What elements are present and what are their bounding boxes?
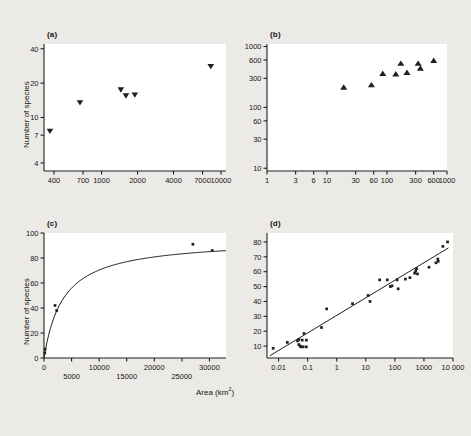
data-point bbox=[391, 284, 394, 287]
svg-text:25000: 25000 bbox=[171, 372, 192, 381]
data-point bbox=[416, 273, 419, 276]
data-point bbox=[415, 267, 418, 270]
svg-text:4000: 4000 bbox=[165, 176, 182, 185]
svg-text:40: 40 bbox=[30, 304, 38, 313]
data-point bbox=[47, 129, 54, 134]
svg-text:700: 700 bbox=[77, 176, 90, 185]
data-point bbox=[55, 309, 58, 312]
panel-d-canvas: 10203040506070800.010.1110100100010 000 bbox=[236, 205, 471, 436]
data-point bbox=[368, 82, 375, 87]
svg-text:100: 100 bbox=[249, 103, 262, 112]
shared-x-axis-label: Area (km2) bbox=[196, 386, 234, 397]
svg-text:1: 1 bbox=[265, 176, 269, 185]
svg-text:7000: 7000 bbox=[194, 176, 211, 185]
svg-text:0: 0 bbox=[34, 354, 38, 363]
data-point bbox=[43, 352, 46, 355]
data-point bbox=[369, 300, 372, 303]
panel-c-canvas: 0204060801000500010000150002000025000300… bbox=[0, 205, 236, 436]
panel-a: (a) Number of species 471020404007001000… bbox=[0, 0, 236, 200]
data-point bbox=[340, 84, 347, 89]
svg-text:30: 30 bbox=[253, 135, 261, 144]
data-point bbox=[44, 348, 47, 351]
data-point bbox=[302, 345, 305, 348]
data-point bbox=[301, 339, 304, 342]
data-point bbox=[305, 345, 308, 348]
svg-text:0: 0 bbox=[42, 363, 46, 372]
data-point bbox=[446, 241, 449, 244]
data-point bbox=[404, 278, 407, 281]
svg-text:30: 30 bbox=[253, 312, 261, 321]
data-point bbox=[211, 249, 214, 252]
panel-b-canvas: 1030601003006001000136103060100300600100… bbox=[236, 0, 471, 200]
data-point bbox=[415, 60, 422, 65]
svg-text:20: 20 bbox=[30, 79, 38, 88]
data-point bbox=[442, 245, 445, 248]
svg-text:60: 60 bbox=[253, 267, 261, 276]
svg-text:6: 6 bbox=[312, 176, 316, 185]
shared-x-axis-label-tail: ) bbox=[232, 388, 235, 397]
species-area-figure: (a) Number of species 471020404007001000… bbox=[0, 0, 471, 436]
svg-text:1: 1 bbox=[335, 363, 339, 372]
data-point bbox=[397, 287, 400, 290]
data-point bbox=[403, 70, 410, 75]
svg-text:50: 50 bbox=[253, 282, 261, 291]
svg-text:10 000: 10 000 bbox=[442, 363, 465, 372]
svg-text:5000: 5000 bbox=[63, 372, 80, 381]
data-point bbox=[392, 71, 399, 76]
panel-b: (b) 103060100300600100013610306010030060… bbox=[236, 0, 471, 200]
data-point bbox=[386, 279, 389, 282]
svg-text:60: 60 bbox=[370, 176, 378, 185]
svg-text:70: 70 bbox=[253, 253, 261, 262]
data-point bbox=[379, 71, 386, 76]
svg-text:10: 10 bbox=[253, 164, 261, 173]
svg-text:3: 3 bbox=[294, 176, 298, 185]
shared-x-axis-label-text: Area (km bbox=[196, 388, 228, 397]
data-point bbox=[77, 100, 84, 105]
svg-text:10000: 10000 bbox=[89, 363, 110, 372]
svg-text:10: 10 bbox=[30, 113, 38, 122]
svg-text:300: 300 bbox=[249, 74, 262, 83]
svg-text:100: 100 bbox=[389, 363, 402, 372]
data-point bbox=[132, 92, 139, 97]
data-point bbox=[118, 87, 125, 92]
svg-text:7: 7 bbox=[34, 131, 38, 140]
data-point bbox=[417, 65, 424, 70]
data-point bbox=[192, 243, 195, 246]
svg-text:20000: 20000 bbox=[144, 363, 165, 372]
svg-text:2000: 2000 bbox=[129, 176, 146, 185]
data-point bbox=[351, 302, 354, 305]
svg-text:1000: 1000 bbox=[245, 42, 262, 51]
svg-text:30000: 30000 bbox=[199, 363, 220, 372]
svg-text:10: 10 bbox=[323, 176, 331, 185]
panel-c: (c) Number of species 020406080100050001… bbox=[0, 205, 236, 436]
data-point bbox=[325, 308, 328, 311]
svg-text:60: 60 bbox=[30, 279, 38, 288]
svg-text:100: 100 bbox=[381, 176, 394, 185]
data-point bbox=[54, 304, 57, 307]
data-point bbox=[378, 279, 381, 282]
svg-text:1000: 1000 bbox=[439, 176, 456, 185]
data-point bbox=[207, 64, 214, 69]
panel-a-canvas: 47102040400700100020004000700010000 bbox=[0, 0, 236, 200]
svg-text:10000: 10000 bbox=[211, 176, 232, 185]
svg-text:15000: 15000 bbox=[116, 372, 137, 381]
data-point bbox=[298, 338, 301, 341]
data-point bbox=[305, 339, 308, 342]
svg-text:60: 60 bbox=[253, 117, 261, 126]
data-point bbox=[320, 326, 323, 329]
svg-text:20: 20 bbox=[253, 327, 261, 336]
svg-text:10: 10 bbox=[362, 363, 370, 372]
data-point bbox=[430, 58, 437, 63]
data-point bbox=[367, 294, 370, 297]
panel-d: (d) 10203040506070800.010.1110100100010 … bbox=[236, 205, 471, 436]
svg-text:80: 80 bbox=[30, 254, 38, 263]
svg-text:0.1: 0.1 bbox=[302, 363, 312, 372]
svg-text:600: 600 bbox=[249, 56, 262, 65]
svg-text:4: 4 bbox=[34, 159, 38, 168]
data-point bbox=[396, 279, 399, 282]
svg-text:10: 10 bbox=[253, 342, 261, 351]
svg-text:40: 40 bbox=[253, 297, 261, 306]
data-point bbox=[303, 332, 306, 335]
svg-text:1000: 1000 bbox=[93, 176, 110, 185]
data-point bbox=[123, 93, 130, 98]
